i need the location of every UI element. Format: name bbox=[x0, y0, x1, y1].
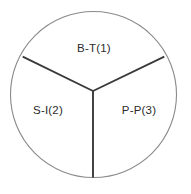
sector-label-b-t-1: B-T(1) bbox=[77, 42, 111, 54]
sector-label-p-p-3: P-P(3) bbox=[122, 104, 156, 116]
sector-label-s-i-2: S-I(2) bbox=[33, 104, 63, 116]
pie-chart-svg bbox=[0, 0, 191, 194]
pie-chart-figure: B-T(1) S-I(2) P-P(3) bbox=[0, 0, 191, 194]
